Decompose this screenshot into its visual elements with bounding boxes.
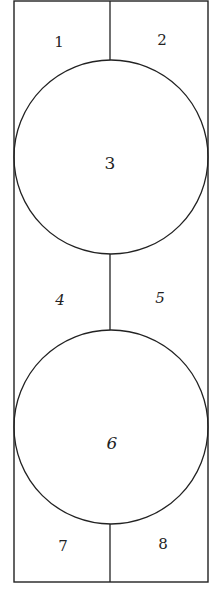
region-label-3: 3 bbox=[105, 155, 116, 172]
region-label-8: 8 bbox=[158, 537, 168, 552]
region-label-2: 2 bbox=[157, 33, 167, 48]
region-label-1: 1 bbox=[54, 35, 64, 50]
region-label-7: 7 bbox=[58, 539, 68, 554]
region-label-4: 4 bbox=[55, 293, 65, 308]
region-label-6: 6 bbox=[107, 435, 118, 452]
circle-lower bbox=[14, 330, 208, 524]
region-diagram bbox=[0, 0, 223, 594]
region-label-5: 5 bbox=[155, 291, 165, 306]
